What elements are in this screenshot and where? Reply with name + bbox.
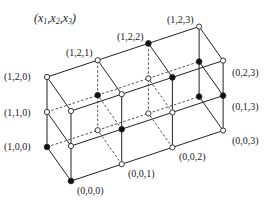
coordinate-title: (x1,x2,x3) — [34, 11, 76, 26]
edge-visible — [47, 112, 71, 146]
open-node — [221, 58, 226, 63]
node-label: (0,2,3) — [232, 67, 259, 79]
edge-visible — [98, 43, 149, 60]
node-label: (1,2,1) — [66, 47, 93, 59]
edge-hidden — [148, 113, 172, 147]
filled-node — [220, 93, 226, 99]
node-labels: (1,2,0)(1,2,1)(1,2,2)(1,2,3)(1,1,0)(1,0,… — [4, 14, 259, 197]
edge-visible — [199, 27, 223, 61]
open-node — [119, 162, 124, 167]
node-label: (1,2,3) — [167, 14, 194, 26]
filled-node — [196, 59, 202, 65]
edge-hidden — [98, 95, 122, 129]
lattice-diagram: (x1,x2,x3) (1,2,0)(1,2,1)(1,2,2)(1,2,3)(… — [0, 0, 271, 204]
open-node — [44, 109, 49, 114]
edge-visible — [47, 60, 98, 77]
node-label: (0,1,3) — [232, 101, 259, 113]
open-node — [170, 110, 175, 115]
open-node — [95, 58, 100, 63]
open-node — [68, 108, 73, 113]
node-label: (0,0,0) — [77, 185, 104, 197]
edge-visible — [122, 147, 173, 164]
edge-visible — [47, 77, 71, 111]
edge-visible — [148, 27, 199, 44]
open-node — [119, 92, 124, 97]
node-label: (1,2,0) — [4, 71, 31, 83]
open-node — [221, 128, 226, 133]
edge-visible — [199, 97, 223, 131]
edge-hidden — [98, 130, 122, 164]
edge-visible — [148, 43, 172, 77]
open-node — [146, 111, 151, 116]
filled-node — [95, 92, 101, 98]
node-label: (0,0,2) — [179, 151, 206, 163]
open-node — [197, 24, 202, 29]
node-label: (0,0,3) — [232, 135, 259, 147]
filled-node — [119, 126, 125, 132]
edge-visible — [172, 131, 223, 148]
filled-node — [170, 75, 176, 81]
open-node — [44, 74, 49, 79]
edge-hidden — [148, 78, 172, 112]
edge-visible — [47, 147, 71, 181]
filled-node — [146, 41, 152, 47]
node-label: (1,2,2) — [117, 31, 144, 43]
open-node — [95, 128, 100, 133]
open-node — [146, 76, 151, 81]
filled-node — [196, 94, 202, 100]
filled-node — [44, 144, 50, 150]
open-node — [170, 145, 175, 150]
edge-visible — [98, 60, 122, 94]
node-label: (1,0,0) — [4, 141, 31, 153]
edge-visible — [199, 62, 223, 96]
edge-visible — [71, 164, 122, 181]
open-node — [68, 143, 73, 148]
filled-node — [68, 178, 74, 184]
node-label: (1,1,0) — [4, 107, 31, 119]
node-label: (0,0,1) — [128, 168, 155, 180]
